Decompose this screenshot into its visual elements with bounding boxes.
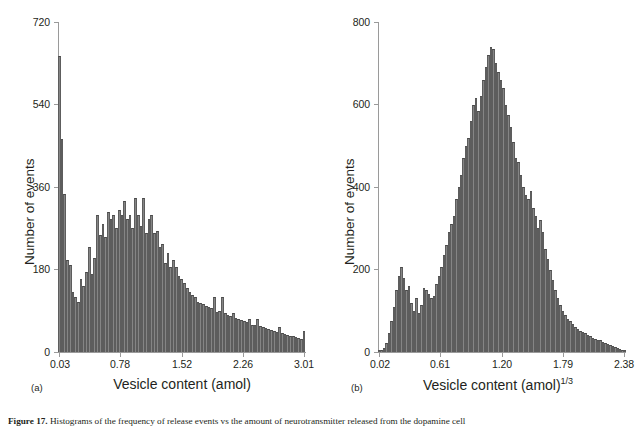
panel-a-x-tick-label-2: 1.52 [172,358,192,370]
figure-caption-label: Figure 17. [8,416,48,426]
panel-b-x-axis-title: Vesicle content (amol)1/3 [370,376,626,393]
panel-b-y-tick-label-4: 800 [332,16,370,28]
panel-b-tag: (b) [351,382,363,393]
panel-a-y-axis-title: Number of events [22,158,37,265]
figure-caption: Figure 17. Histograms of the frequency o… [8,416,634,427]
panel-b-bars [378,22,626,352]
panel-a-x-tick [182,353,183,357]
panel-b: 800 600 400 200 0 Number of events 0.02 … [320,0,640,427]
panel-b-x-tick [502,353,503,357]
panel-a-x-tick-label-1: 0.78 [110,358,130,370]
panel-a-x-tick [59,353,60,357]
panel-b-x-tick [563,353,564,357]
panel-a-plot-area [58,22,306,352]
panel-b-y-tick-label-0: 0 [332,346,370,358]
panel-b-x-axis-title-text: Vesicle content (amol) [423,377,561,393]
panel-a-y-tick-label-4: 720 [12,16,50,28]
panel-a-x-axis-title: Vesicle content (amol) [58,376,306,392]
panel-a-x-tick-label-4: 3.01 [294,358,314,370]
panel-a-x-tick [304,353,305,357]
panel-b-y-tick-label-3: 600 [332,98,370,110]
panel-b-x-tick-label-0: 0.02 [370,358,390,370]
panel-a-y-tick-label-0: 0 [12,346,50,358]
figure-caption-text: Histograms of the frequency of release e… [48,416,466,426]
histogram-bar [624,350,626,352]
panel-b-x-tick-label-3: 1.79 [553,358,573,370]
panel-a-x-axis-title-text: Vesicle content (amol) [113,376,251,392]
figure-container: 720 540 360 180 0 Number of events 0.03 … [0,0,640,427]
panel-b-x-axis-title-exponent: 1/3 [561,376,574,386]
panel-b-x-tick [379,353,380,357]
panel-b-x-tick [440,353,441,357]
panel-a-bars [58,22,306,352]
panel-a-tag: (a) [31,382,43,393]
panel-b-x-tick [624,353,625,357]
panel-a-x-tick [243,353,244,357]
panel-b-x-tick-label-1: 0.61 [430,358,450,370]
panel-a-x-tick-label-3: 2.26 [233,358,253,370]
panel-a-x-tick-label-0: 0.03 [50,358,70,370]
panel-b-y-axis-title: Number of events [342,158,357,265]
panel-b-plot-area [378,22,626,352]
panel-b-x-tick-label-4: 2.38 [614,358,634,370]
histogram-bar [303,331,306,352]
panel-b-x-tick-label-2: 1.20 [492,358,512,370]
panel-a-x-tick [120,353,121,357]
panel-a-y-tick-label-3: 540 [12,98,50,110]
panel-a: 720 540 360 180 0 Number of events 0.03 … [0,0,320,427]
